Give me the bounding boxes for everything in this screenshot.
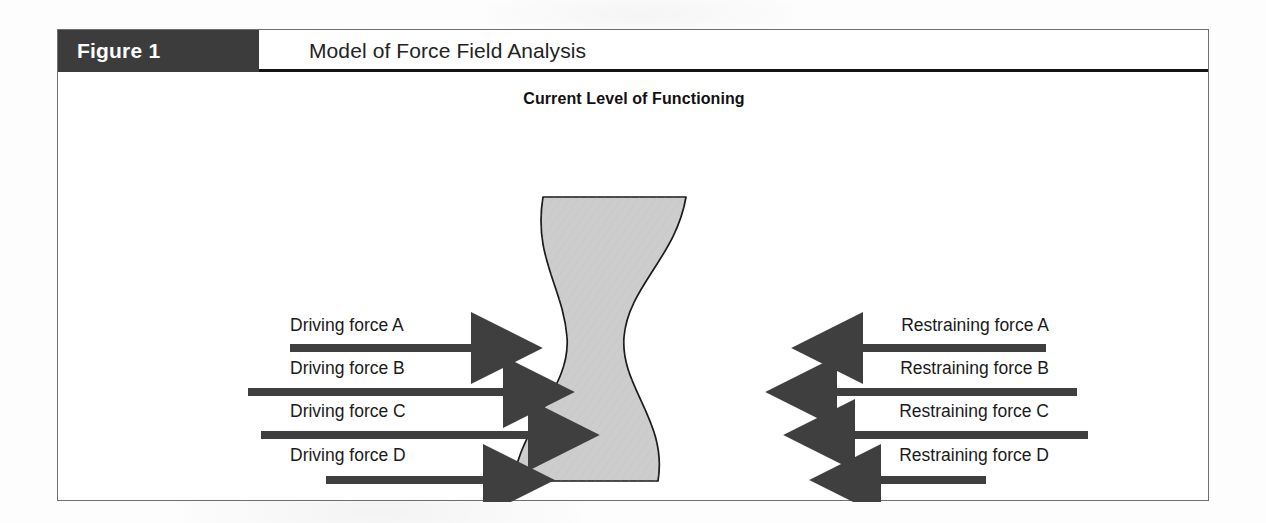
driving-force-row-b: Driving force B	[248, 358, 562, 392]
restraining-force-c-label: Restraining force C	[899, 401, 1049, 421]
driving-force-a-label: Driving force A	[290, 315, 404, 335]
restraining-force-row-c: Restraining force C	[796, 401, 1088, 435]
restraining-forces-group: Restraining force A Restraining force B …	[778, 315, 1088, 480]
force-field-diagram: Driving force A Driving force B Driving …	[58, 75, 1210, 502]
figure-body: Current Level of Functioning	[58, 75, 1210, 502]
driving-force-b-label: Driving force B	[290, 358, 405, 378]
driving-force-c-label: Driving force C	[290, 401, 406, 421]
figure-title: Model of Force Field Analysis	[309, 39, 586, 63]
restraining-force-d-label: Restraining force D	[899, 445, 1049, 465]
figure-number-label: Figure 1	[77, 39, 160, 63]
restraining-force-row-b: Restraining force B	[778, 358, 1077, 392]
restraining-force-b-label: Restraining force B	[900, 358, 1049, 378]
figure-header: Figure 1 Model of Force Field Analysis	[58, 30, 1208, 72]
figure-number-box: Figure 1	[58, 30, 259, 72]
restraining-force-row-a: Restraining force A	[804, 315, 1049, 348]
restraining-force-a-label: Restraining force A	[901, 315, 1049, 335]
driving-force-row-a: Driving force A	[290, 315, 530, 348]
driving-force-row-d: Driving force D	[290, 445, 542, 480]
restraining-force-row-d: Restraining force D	[822, 445, 1049, 480]
driving-force-d-label: Driving force D	[290, 445, 406, 465]
figure-frame: Figure 1 Model of Force Field Analysis C…	[57, 29, 1209, 501]
